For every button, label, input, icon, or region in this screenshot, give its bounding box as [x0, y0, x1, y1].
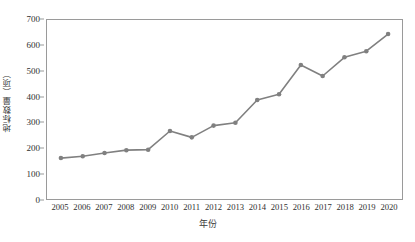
data-point-marker: [386, 32, 391, 37]
y-axis-title: 地标数量（项）: [0, 0, 16, 200]
x-tick-label: 2012: [205, 203, 222, 212]
x-tick-label: 2010: [161, 203, 178, 212]
data-point-marker: [277, 92, 282, 97]
y-tick-mark: [40, 70, 44, 71]
y-tick-label: 200: [27, 144, 41, 153]
series-plot: [47, 20, 402, 199]
x-tick-label: 2007: [95, 203, 112, 212]
x-tick-label: 2014: [249, 203, 266, 212]
y-tick-mark: [40, 200, 44, 201]
data-point-marker: [124, 148, 129, 153]
x-tick-label: 2020: [380, 203, 397, 212]
y-tick-mark: [40, 44, 44, 45]
x-tick-label: 2016: [293, 203, 310, 212]
x-tick-label: 2005: [51, 203, 68, 212]
data-point-marker: [59, 156, 64, 161]
x-tick-label: 2018: [337, 203, 354, 212]
data-point-marker: [364, 49, 369, 54]
y-tick-label: 100: [27, 170, 41, 179]
data-point-marker: [342, 55, 347, 60]
y-tick-mark: [40, 19, 44, 20]
x-tick-label: 2006: [73, 203, 90, 212]
data-point-marker: [168, 129, 173, 134]
data-point-marker: [299, 63, 304, 68]
data-point-marker: [146, 147, 151, 152]
y-axis-title-text: 地标数量（项）: [4, 69, 13, 132]
y-tick-label: 700: [27, 15, 41, 24]
line-chart: 地标数量（项） 0100200300400500600700 200520062…: [0, 0, 415, 242]
plot-area: [46, 19, 403, 200]
x-tick-label: 2013: [227, 203, 244, 212]
series-line: [61, 34, 388, 158]
data-point-marker: [320, 74, 325, 79]
x-tick-label: 2017: [315, 203, 332, 212]
data-point-marker: [233, 121, 238, 126]
y-tick-mark: [40, 148, 44, 149]
y-tick-label: 500: [27, 66, 41, 75]
x-tick-label: 2011: [183, 203, 200, 212]
y-tick-label: 600: [27, 40, 41, 49]
y-tick-label: 300: [27, 118, 41, 127]
data-point-marker: [80, 154, 85, 159]
data-point-marker: [211, 123, 216, 128]
data-point-marker: [255, 98, 260, 103]
x-tick-label: 2008: [117, 203, 134, 212]
x-tick-label: 2015: [271, 203, 288, 212]
y-tick-mark: [40, 174, 44, 175]
x-tick-label: 2019: [358, 203, 375, 212]
y-tick-mark: [40, 122, 44, 123]
y-tick-mark: [40, 96, 44, 97]
x-axis-title: 年份: [0, 220, 415, 229]
x-tick-label: 2009: [139, 203, 156, 212]
x-axis-tick-labels: 2005200620072008200920102011201220132014…: [0, 203, 415, 219]
data-point-marker: [189, 135, 194, 140]
y-tick-label: 400: [27, 92, 41, 101]
data-point-marker: [102, 151, 107, 156]
